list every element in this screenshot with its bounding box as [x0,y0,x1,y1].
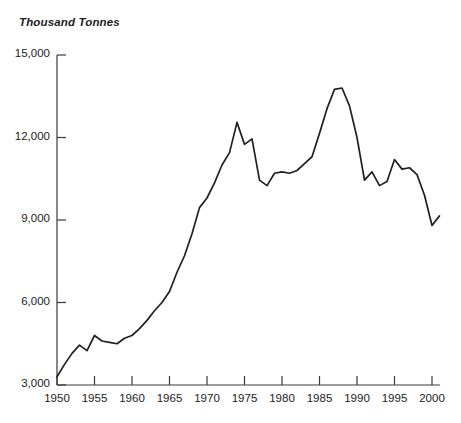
y-axis-tick-label: 3,000 [4,377,50,389]
y-axis-tick-label: 15,000 [4,47,50,59]
line-chart-plot [0,0,461,423]
y-axis-tick-label: 12,000 [4,130,50,142]
data-series-line [57,88,440,377]
y-axis-ticks [57,55,66,385]
chart-figure: Thousand Tonnes 3,0006,0009,00012,00015,… [0,0,461,423]
y-axis-tick-label: 6,000 [4,295,50,307]
axes-group [57,55,440,385]
y-axis-tick-label: 9,000 [4,212,50,224]
x-axis-ticks [57,376,432,385]
x-axis-tick-label: 2000 [410,392,454,404]
